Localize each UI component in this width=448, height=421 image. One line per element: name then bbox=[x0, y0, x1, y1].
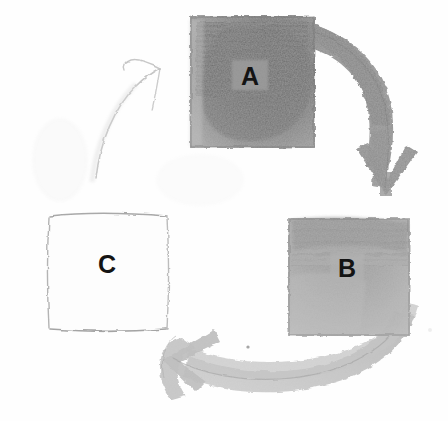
cycle-diagram: A B bbox=[0, 0, 448, 421]
node-b[interactable]: B bbox=[288, 217, 410, 336]
node-c[interactable]: C bbox=[48, 213, 169, 331]
node-b-label: B bbox=[338, 254, 356, 282]
node-a[interactable]: A bbox=[190, 16, 315, 148]
diagram-canvas: A B bbox=[0, 0, 448, 421]
pencil-smudge-dot bbox=[246, 345, 249, 348]
node-c-label: C bbox=[98, 250, 116, 278]
node-a-label: A bbox=[241, 62, 259, 90]
